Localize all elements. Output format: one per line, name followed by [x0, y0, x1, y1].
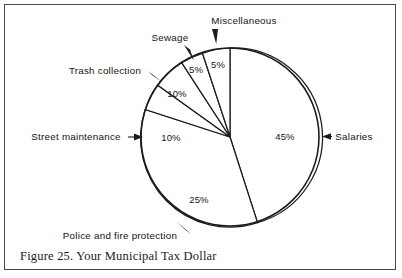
police-and-fire-protection-arrow-icon	[176, 221, 191, 234]
salaries-arrow-icon	[322, 133, 331, 140]
pie-callout-label-trash-collection: Trash collection	[69, 65, 141, 76]
pie-callout-label-street-maintenance: Street maintenance	[31, 131, 121, 142]
figure-container: 45% 25% 10% 10% 5% 5% Miscellaneous Sewa…	[0, 0, 402, 278]
pie-callout-label-miscellaneous: Miscellaneous	[211, 15, 276, 26]
pie-value-label-miscellaneous: 5%	[211, 59, 225, 70]
pie-value-label-police-and-fire-protection: 25%	[189, 194, 209, 205]
pie-chart: 45% 25% 10% 10% 5% 5% Miscellaneous Sewa…	[0, 0, 402, 278]
pie-value-label-sewage: 5%	[189, 64, 203, 75]
pie-callout-label-police-and-fire-protection: Police and fire protection	[63, 230, 177, 241]
pie-callout-label-sewage: Sewage	[152, 32, 189, 43]
pie-value-label-trash-collection: 10%	[167, 88, 187, 99]
pie-callout-label-salaries: Salaries	[335, 131, 372, 142]
pie-value-label-salaries: 45%	[275, 131, 295, 142]
figure-caption: Figure 25. Your Municipal Tax Dollar	[20, 249, 217, 263]
miscellaneous-arrow-icon	[212, 29, 218, 44]
trash-collection-arrow-icon	[148, 71, 162, 82]
pie-value-label-street-maintenance: 10%	[161, 132, 181, 143]
